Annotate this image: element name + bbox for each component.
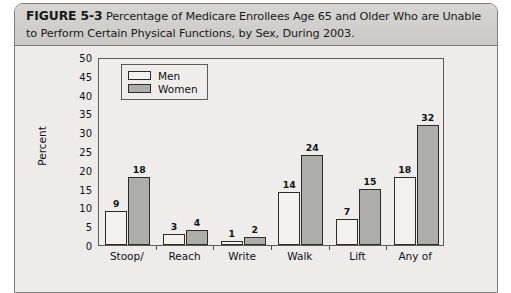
y-tick-label: 45 — [70, 71, 92, 82]
figure-number: FIGURE 5-3 — [26, 9, 102, 23]
bar-women — [359, 189, 381, 245]
y-tick-label: 25 — [70, 147, 92, 158]
legend-item-women: Women — [128, 82, 198, 95]
legend-label-men: Men — [158, 70, 180, 82]
y-tick-label: 30 — [70, 128, 92, 139]
legend-label-women: Women — [158, 83, 198, 95]
x-tick-mark — [329, 246, 330, 250]
x-tick-label: Lift — [349, 250, 365, 262]
x-tick-mark — [213, 246, 214, 250]
x-tick-mark — [156, 246, 157, 250]
legend-item-men: Men — [128, 69, 198, 82]
bar-value-label: 18 — [398, 164, 411, 175]
bar-women — [301, 155, 323, 245]
bar-value-label: 14 — [283, 179, 296, 190]
bar-men — [221, 241, 243, 245]
bar-women — [128, 177, 150, 245]
x-tick-label: Reach — [168, 250, 200, 262]
x-tick-label: Write — [228, 250, 256, 262]
bar-men — [394, 177, 416, 245]
x-tick-label: Stoop/ — [110, 250, 144, 262]
bar-value-label: 32 — [421, 112, 434, 123]
chart-legend: Men Women — [121, 64, 208, 100]
bar-men — [278, 192, 300, 245]
x-tick-label: Any of — [398, 250, 432, 262]
bar-value-label: 15 — [364, 176, 377, 187]
bar-value-label: 7 — [344, 206, 350, 217]
y-tick-label: 40 — [70, 90, 92, 101]
bar-value-label: 18 — [133, 164, 146, 175]
bar-women — [186, 230, 208, 245]
y-tick-label: 50 — [70, 53, 92, 64]
bar-value-label: 4 — [194, 217, 200, 228]
figure-plot-body: Percent 05101520253035404550 Men Women 9… — [15, 46, 497, 293]
bar-value-label: 2 — [251, 224, 257, 235]
bar-value-label: 24 — [306, 142, 319, 153]
bar-men — [163, 234, 185, 245]
y-tick-label: 10 — [70, 203, 92, 214]
y-tick-label: 0 — [70, 241, 92, 252]
y-tick-label: 20 — [70, 165, 92, 176]
bar-women — [417, 125, 439, 245]
legend-swatch-women-icon — [128, 84, 151, 93]
y-tick-label: 35 — [70, 109, 92, 120]
bar-men — [336, 219, 358, 245]
legend-swatch-men-icon — [128, 71, 151, 80]
bar-men — [105, 211, 127, 245]
figure-card: FIGURE 5-3 Percentage of Medicare Enroll… — [14, 3, 498, 293]
bar-value-label: 3 — [171, 221, 177, 232]
y-tick-label: 5 — [70, 222, 92, 233]
figure-caption-text: FIGURE 5-3 Percentage of Medicare Enroll… — [26, 8, 485, 42]
y-axis-label: Percent — [36, 111, 48, 181]
bar-value-label: 1 — [228, 228, 234, 239]
x-tick-mark — [271, 246, 272, 250]
plot-area: Men Women 918341214247151832 — [98, 58, 444, 246]
bar-chart: Percent 05101520253035404550 Men Women 9… — [15, 46, 498, 293]
bar-women — [244, 237, 266, 245]
figure-caption-bar: FIGURE 5-3 Percentage of Medicare Enroll… — [15, 4, 497, 46]
x-tick-label: Walk — [287, 250, 312, 262]
x-tick-mark — [386, 246, 387, 250]
y-tick-label: 15 — [70, 184, 92, 195]
bar-value-label: 9 — [113, 198, 119, 209]
